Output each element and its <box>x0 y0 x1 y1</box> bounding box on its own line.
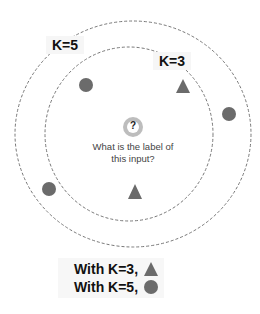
question-icon: ? <box>128 120 138 131</box>
circle-point <box>42 182 56 196</box>
result-k3: With K=3, <box>74 260 158 278</box>
circle-point <box>222 107 236 121</box>
triangle-icon <box>144 262 158 276</box>
circle-point <box>79 78 93 92</box>
triangle-point <box>128 184 142 199</box>
k3-label: K=3 <box>153 52 191 70</box>
result-k5-text: With K=5, <box>74 278 138 296</box>
triangle-point <box>176 79 190 93</box>
k5-label: K=5 <box>46 36 84 54</box>
query-question: What is the label of this input? <box>83 141 183 165</box>
results-box: With K=3, With K=5, <box>58 258 164 298</box>
result-k3-text: With K=3, <box>74 260 138 278</box>
query-text-line2: this input? <box>83 153 183 165</box>
result-k5: With K=5, <box>74 278 158 296</box>
circle-icon <box>144 280 158 294</box>
query-text-line1: What is the label of <box>83 141 183 153</box>
